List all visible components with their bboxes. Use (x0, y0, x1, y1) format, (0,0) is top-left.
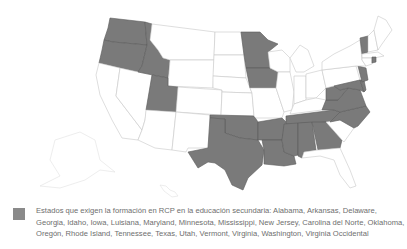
state-indiana (294, 76, 306, 104)
state-south-dakota (213, 55, 246, 78)
state-new-york (322, 40, 366, 70)
state-north-dakota (214, 32, 244, 55)
state-kansas (221, 92, 254, 116)
state-alaska (40, 132, 115, 188)
state-michigan (290, 45, 314, 72)
legend-text: Estados que exigen la formación en RCP e… (36, 205, 406, 240)
state-rhode-island (372, 57, 376, 63)
legend-swatch (13, 208, 25, 220)
state-hawaii (160, 185, 178, 197)
state-iowa (246, 68, 278, 88)
state-maine (374, 16, 392, 50)
state-wyoming (168, 60, 214, 88)
us-map (0, 0, 407, 200)
state-mississippi (282, 123, 298, 156)
state-arkansas (258, 118, 286, 140)
state-wisconsin (268, 50, 290, 72)
state-washington (104, 18, 147, 45)
state-new-mexico (172, 112, 210, 152)
state-florida (302, 148, 356, 188)
state-colorado (176, 87, 222, 115)
